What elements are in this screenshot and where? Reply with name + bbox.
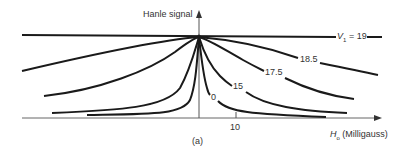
convergence-point (197, 35, 201, 39)
label-15: 15 (233, 82, 243, 91)
x-axis-label: Ho (Milligauss) (330, 130, 388, 141)
label-v19-sub: 1 (343, 37, 346, 43)
label-18-5: 18.5 (300, 55, 318, 64)
y-axis-arrow-icon (196, 10, 202, 18)
y-axis-label: Hanle signal (143, 10, 193, 19)
x-axis-arrow-icon (374, 115, 382, 121)
x-axis-unit: (Milligauss) (342, 129, 388, 139)
panel-label: (a) (192, 137, 203, 146)
label-v19-value: = 19 (349, 31, 367, 41)
x-tick-label-10: 10 (230, 123, 240, 132)
label-v19: V1 = 19 (337, 32, 367, 43)
label-17-5: 17.5 (265, 68, 283, 77)
x-axis-sub: o (337, 135, 340, 141)
label-0: 0 (211, 93, 216, 102)
